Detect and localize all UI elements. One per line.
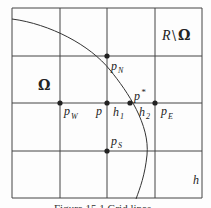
label-p-north-sub: N [117,66,124,75]
label-h2-main: h [139,105,145,119]
grid-diagram: Ω R \ Ω p N p W p h 1 p * h 2 p E p S h … [0,0,211,208]
complement-label: R \ Ω [161,27,190,43]
label-p-west: p W [63,104,79,121]
label-h1-sub: 1 [120,112,124,121]
label-h2: h 2 [139,105,150,121]
label-p-west-main: p [63,104,70,118]
label-h1-main: h [113,105,119,119]
complement-r: R [161,28,171,43]
point-p-south [104,148,109,153]
label-p-east: p E [160,104,173,121]
omega-label: Ω [38,77,50,93]
point-p-west [57,100,62,105]
label-p-east-sub: E [167,112,173,121]
label-p-east-main: p [160,104,167,118]
label-p-south-sub: S [118,141,122,150]
label-p-south-main: p [110,134,117,148]
label-h1: h 1 [113,105,124,121]
label-p-north-main: p [110,59,117,73]
label-p-star-main: p [133,89,140,103]
label-p-west-sub: W [71,112,79,121]
point-p-east [152,100,157,105]
complement-backslash: \ [172,29,177,43]
label-p-north: p N [110,59,124,75]
point-p-star [127,100,132,105]
label-p: p [95,104,102,118]
point-p-north [104,53,109,58]
complement-omega: Ω [178,27,190,43]
label-h: h [193,173,199,187]
label-h2-sub: 2 [146,112,150,121]
figure-caption: Figure 15.1 Grid lines [54,202,151,208]
label-p-star-sup: * [141,87,146,97]
point-p [104,100,109,105]
boundary-curve [12,19,147,199]
label-p-star: p * [133,87,146,103]
label-p-south: p S [110,134,122,150]
